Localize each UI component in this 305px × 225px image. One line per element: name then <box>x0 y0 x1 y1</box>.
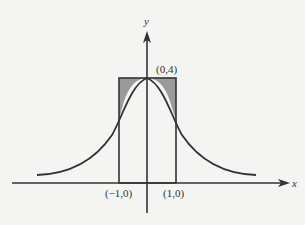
diagram: x y (0,4) (−1,0) (1,0) <box>0 0 305 225</box>
right-base-label: (1,0) <box>163 187 184 200</box>
left-shaded-region <box>119 78 147 120</box>
peak-label: (0,4) <box>156 63 177 76</box>
y-axis-label: y <box>143 15 149 27</box>
x-axis-label: x <box>291 177 297 189</box>
graph-svg: x y (0,4) (−1,0) (1,0) <box>0 0 305 225</box>
left-base-label: (−1,0) <box>105 187 133 200</box>
